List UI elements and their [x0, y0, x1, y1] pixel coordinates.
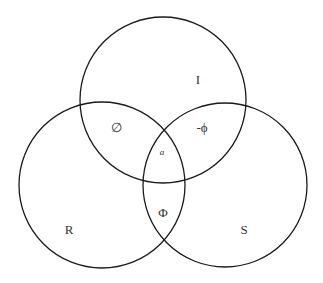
- label-i-r-intersection: ∅: [111, 121, 122, 134]
- circle-s: [143, 103, 307, 267]
- label-r-s-intersection: Φ: [158, 206, 168, 219]
- label-i-s-intersection: -ϕ: [196, 121, 207, 134]
- label-center-intersection: a: [160, 148, 165, 157]
- circle-r: [19, 102, 185, 268]
- circle-i: [80, 17, 246, 183]
- label-i: I: [196, 73, 200, 86]
- venn-diagram: I R S ∅ -ϕ a Φ: [0, 0, 323, 283]
- label-s: S: [240, 223, 247, 236]
- venn-circles: [0, 0, 323, 283]
- label-r: R: [65, 223, 74, 236]
